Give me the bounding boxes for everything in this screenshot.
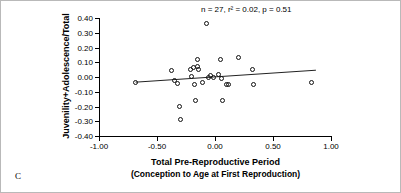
y-axis-tick [95,77,99,78]
y-axis-tick-label: -0.40 [55,132,93,141]
data-point [193,98,198,103]
x-axis-tick [157,137,158,141]
data-point [192,82,197,87]
x-axis-subtitle: (Conception to Age at First Reproduction… [79,169,352,179]
x-axis-tick-label: 0.00 [195,142,235,151]
y-axis-tick [95,18,99,19]
x-axis-tick-label: -1.00 [79,142,119,151]
x-axis-tick [273,137,274,141]
x-axis-tick [99,137,100,141]
y-axis-tick-label: 0.20 [55,44,93,53]
data-point [200,80,205,85]
y-axis-tick [95,62,99,63]
data-point [220,98,225,103]
stats-annotation: n = 27, r² = 0.02, p = 0.51 [201,5,292,14]
y-axis-tick-label: 0.10 [55,58,93,67]
data-point [195,57,200,62]
x-axis-tick-label: -0.50 [137,142,177,151]
x-axis-tick-label: 1.00 [311,142,351,151]
x-axis-tick-label: 0.50 [253,142,293,151]
x-axis-tick [331,137,332,141]
x-axis-title: Total Pre-Reproductive Period [99,157,332,168]
data-point [218,57,223,62]
y-axis-tick-label: 0.40 [55,14,93,23]
data-point [189,74,194,79]
y-axis-tick-label: 0.00 [55,73,93,82]
y-axis-tick-label: -0.30 [55,117,93,126]
data-point [177,104,182,109]
figure-panel: n = 27, r² = 0.02, p = 0.51 Juvenility+A… [0,0,401,193]
y-axis-tick [95,107,99,108]
y-axis-tick [95,92,99,93]
y-axis-tick-label: -0.10 [55,88,93,97]
y-axis-tick [95,48,99,49]
panel-label: C [15,171,21,181]
plot-area [99,18,331,136]
data-point [236,55,241,60]
x-axis-tick [215,137,216,141]
y-axis-tick-label: -0.20 [55,103,93,112]
y-axis-tick [95,121,99,122]
y-axis-tick-label: 0.30 [55,29,93,38]
y-axis-tick [95,33,99,34]
data-point [211,75,216,80]
data-point [251,82,256,87]
